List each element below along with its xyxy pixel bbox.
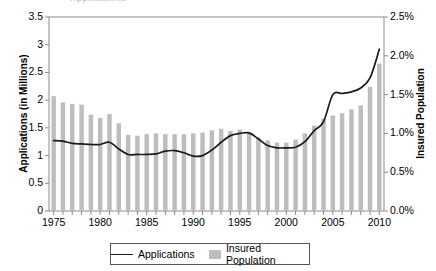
bar	[98, 118, 102, 211]
bar	[377, 64, 381, 211]
bar	[51, 96, 55, 211]
bar	[200, 133, 204, 211]
bar-series-insured-population	[51, 64, 381, 211]
legend-item-insured-population: Insured Population	[209, 242, 309, 266]
bar	[340, 113, 344, 211]
chart-container: Applications Applications (in Millions) …	[0, 0, 436, 271]
bar	[321, 119, 325, 211]
bar	[293, 140, 297, 211]
bar	[126, 135, 130, 211]
tick-marks	[45, 17, 388, 215]
bar	[275, 143, 279, 211]
bar	[312, 126, 316, 211]
bar	[117, 123, 121, 211]
bar	[79, 105, 83, 211]
legend-item-applications: Applications	[111, 248, 195, 260]
bar	[256, 137, 260, 211]
bar	[349, 109, 353, 211]
bar	[70, 104, 74, 211]
bar	[61, 102, 65, 211]
plot-area	[0, 0, 436, 271]
bar	[144, 134, 148, 211]
bar	[210, 130, 214, 211]
bar	[172, 134, 176, 211]
bar	[182, 134, 186, 211]
bar	[284, 143, 288, 211]
bar	[191, 133, 195, 211]
bar	[107, 114, 111, 211]
bar	[135, 136, 139, 211]
line-marker-icon	[111, 254, 133, 255]
legend-label-insured-population: Insured Population	[226, 242, 309, 266]
bar	[331, 116, 335, 211]
bar	[247, 133, 251, 211]
line-series-applications	[54, 49, 380, 156]
bar	[89, 115, 93, 211]
bar	[303, 133, 307, 211]
bar	[163, 134, 167, 211]
bar	[228, 131, 232, 211]
bar	[265, 140, 269, 211]
bar-swatch-icon	[209, 250, 221, 259]
chart-legend: Applications Insured Population	[110, 243, 310, 265]
legend-label-applications: Applications	[138, 248, 195, 260]
bar	[154, 133, 158, 211]
bar	[368, 87, 372, 211]
bar	[359, 105, 363, 211]
bar	[238, 130, 242, 211]
